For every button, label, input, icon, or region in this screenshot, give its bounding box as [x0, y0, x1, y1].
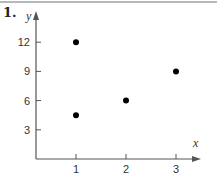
x-tick-label: 1	[73, 163, 79, 173]
y-tick-label: 3	[24, 124, 30, 136]
x-tick-label: 3	[173, 163, 179, 173]
axes: yx	[25, 9, 201, 162]
x-tick-label: 2	[123, 163, 129, 173]
scatter-chart: yx 36912123	[0, 0, 217, 173]
ticks: 36912123	[18, 36, 179, 173]
x-axis-label: x	[192, 136, 199, 150]
data-point	[73, 112, 79, 118]
data-points	[73, 39, 179, 118]
y-axis-label: y	[25, 9, 32, 23]
y-tick-label: 9	[24, 65, 30, 77]
data-point	[173, 68, 179, 74]
y-tick-label: 6	[24, 95, 30, 107]
x-axis-arrow-icon	[192, 156, 201, 162]
y-tick-label: 12	[18, 36, 30, 48]
y-axis-arrow-icon	[33, 11, 39, 20]
data-point	[123, 98, 129, 104]
data-point	[73, 39, 79, 45]
